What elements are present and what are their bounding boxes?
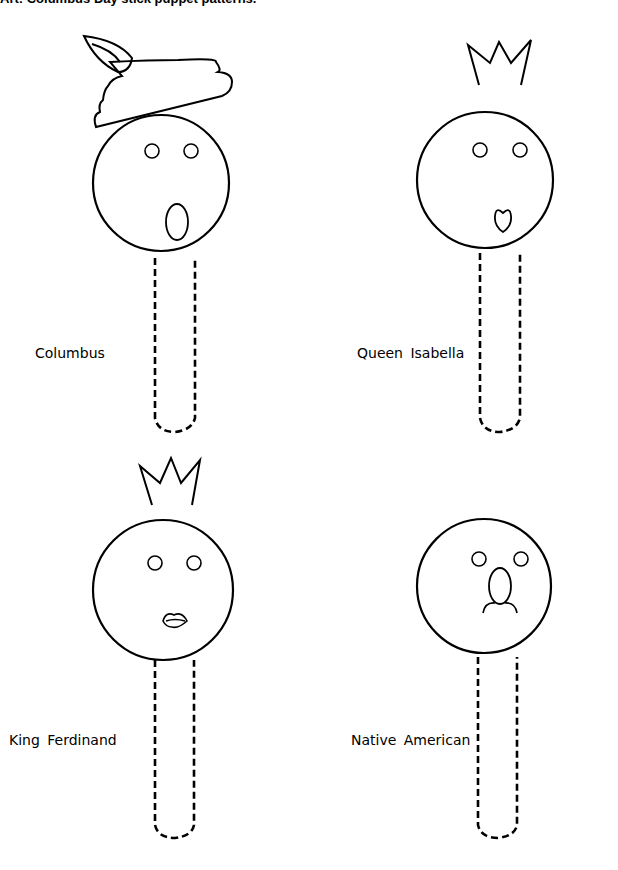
head-circle [417, 112, 553, 248]
label-native-american: Native American [351, 732, 470, 748]
puppet-queen-isabella [417, 40, 553, 432]
head-circle [93, 115, 229, 251]
label-queen-isabella: Queen Isabella [357, 345, 464, 361]
stick-outline [478, 657, 517, 838]
crown-icon [140, 458, 200, 505]
puppet-columbus [84, 36, 232, 432]
label-king-ferdinand: King Ferdinand [9, 732, 117, 748]
label-columbus: Columbus [35, 345, 105, 361]
puppet-native-american [417, 519, 551, 838]
feather-icon [84, 36, 132, 72]
stick-outline [155, 660, 194, 838]
puppet-king-ferdinand [93, 458, 233, 838]
head-circle [93, 520, 233, 660]
stick-outline [480, 253, 520, 432]
head-circle [417, 519, 551, 653]
stick-outline [155, 258, 195, 432]
crown-icon [468, 40, 531, 85]
